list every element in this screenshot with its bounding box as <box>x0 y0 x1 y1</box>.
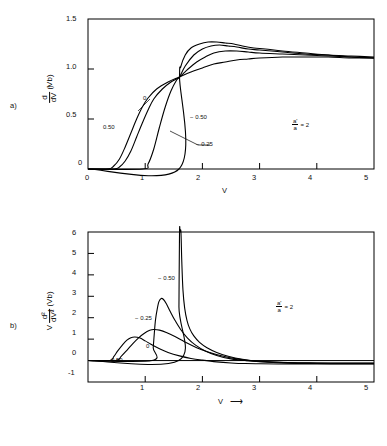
panel-a-xtick-5: 5 <box>364 173 368 182</box>
curve-0 <box>88 51 374 169</box>
panel-a-xtick-0: 0 <box>85 173 89 182</box>
panel-a-leader-lines <box>138 99 210 145</box>
panel-b-ytick-marks <box>88 253 94 360</box>
panel-a-ylabel-fraction: d dV <box>41 92 59 104</box>
panel-b-curves <box>88 226 374 364</box>
curve-050 <box>88 337 374 364</box>
panel-a-ylabel-units: (Vb) <box>46 74 55 91</box>
panel-b-ytick-1: 1 <box>72 328 76 337</box>
panel-a-axes-frame <box>88 19 374 169</box>
panel-b-ylabel-prefix: V <box>46 323 55 330</box>
panel-b-ytick-3: 3 <box>72 288 76 297</box>
panel-a-xtick-marks <box>145 163 317 169</box>
panel-a-curves <box>88 42 374 176</box>
panel-b-xlabel: V <box>218 397 223 406</box>
panel-a-ylabel-denominator: dV <box>51 92 59 104</box>
panel-b-ylabel-units: (Vb) <box>46 291 55 308</box>
panel-b: b) ↑ V d² dV² (Vb) 6 5 4 3 2 1 0 -1 1 2 … <box>0 223 387 446</box>
curve-050 <box>88 57 374 169</box>
panel-a-xtick-3: 3 <box>252 173 256 182</box>
panel-a-ytick-1p5: 1.5 <box>66 14 76 23</box>
panel-a: a) ↑ d dV (Vb) 1.5 1.0 0.5 0 0 1 2 3 4 5… <box>0 0 387 223</box>
figure-root: a) ↑ d dV (Vb) 1.5 1.0 0.5 0 0 1 2 3 4 5… <box>0 0 387 446</box>
panel-b-ytick-2: 2 <box>72 308 76 317</box>
panel-b-ylabel-fraction: d² dV² <box>41 309 59 323</box>
panel-b-ytick-5: 5 <box>72 248 76 257</box>
panel-a-xlabel: V <box>222 186 227 195</box>
panel-b-xtick-marks <box>145 376 317 382</box>
panel-b-ytick-m1: -1 <box>68 368 75 377</box>
panel-a-letter: a) <box>10 101 17 110</box>
panel-a-ytick-marks <box>88 69 94 119</box>
curve-050 <box>88 42 374 176</box>
panel-b-ytick-6: 6 <box>72 228 76 237</box>
panel-a-ytick-0: 0 <box>78 158 82 167</box>
panel-b-letter: b) <box>10 321 17 330</box>
panel-a-ytick-0p5: 0.5 <box>66 110 76 119</box>
panel-b-ylabel-denominator: dV² <box>51 309 59 323</box>
curve-025 <box>88 298 374 363</box>
panel-b-xlabel-group: V ⟶ <box>218 396 243 406</box>
panel-b-axes-frame <box>88 232 374 382</box>
panel-b-ytick-4: 4 <box>72 268 76 277</box>
panel-a-plot-area <box>88 19 387 174</box>
panel-b-ytick-0: 0 <box>72 348 76 357</box>
panel-a-xtick-2: 2 <box>196 173 200 182</box>
panel-a-ytick-1p0: 1.0 <box>66 62 76 71</box>
curve-050 <box>88 226 374 364</box>
panel-a-xtick-1: 1 <box>140 173 144 182</box>
panel-a-xtick-4: 4 <box>308 173 312 182</box>
panel-b-plot-area <box>88 232 387 387</box>
panel-b-xlabel-arrow: ⟶ <box>225 396 243 406</box>
